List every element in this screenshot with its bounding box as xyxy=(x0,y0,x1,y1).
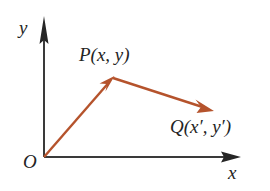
x-axis-label: x xyxy=(228,163,236,182)
point-label-p: P(x, y) xyxy=(79,45,130,64)
x-axis-arrowhead xyxy=(221,152,241,163)
point-label-q: Q(x′, y′) xyxy=(170,117,231,136)
vector-op-line xyxy=(44,84,108,158)
vector-pq-line xyxy=(113,78,204,108)
y-axis-arrowhead xyxy=(40,16,49,44)
origin-label: O xyxy=(23,152,37,171)
y-axis-label: y xyxy=(19,18,27,37)
vector-diagram-figure: y x O P(x, y) Q(x′, y′) xyxy=(0,0,270,191)
